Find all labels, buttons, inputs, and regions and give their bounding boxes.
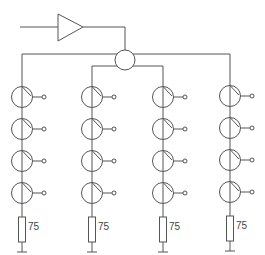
tap-port-icon-2-1 [112,95,116,99]
tap-port-icon-4-1 [250,94,254,98]
tap-port-icon-4-4 [250,190,254,194]
terminator-label-4: 75 [236,220,248,231]
tap-port-icon-1-3 [42,159,46,163]
tap-port-icon-4-3 [250,158,254,162]
resistor-icon-2 [89,217,96,242]
resistor-icon-3 [160,217,167,242]
static-layer [12,14,255,252]
feeder-line-4 [133,54,230,216]
distribution-diagram: 75 75 75 75 [0,0,265,255]
tap-port-icon-3-2 [183,127,187,131]
tap-port-icon-1-1 [42,95,46,99]
tap-port-icon-2-4 [112,191,116,195]
tap-port-icon-2-2 [112,127,116,131]
terminator-label-3: 75 [169,221,181,232]
tap-port-icon-1-2 [42,127,46,131]
resistor-icon-4 [227,216,234,241]
tap-port-icon-4-2 [250,126,254,130]
tap-port-icon-3-1 [183,95,187,99]
terminator-label-2: 75 [98,221,110,232]
tap-port-icon-2-3 [112,159,116,163]
amplifier-icon [58,14,83,41]
amplifier-output-line [83,27,125,50]
terminator-label-1: 75 [28,221,40,232]
splitter-icon [115,50,135,70]
tap-port-icon-3-4 [183,191,187,195]
tap-port-icon-1-4 [42,191,46,195]
tap-port-icon-3-3 [183,159,187,163]
resistor-icon-1 [19,217,26,242]
